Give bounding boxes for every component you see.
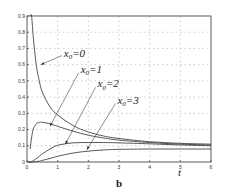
x-tick-label: 4 — [148, 164, 151, 170]
x-tick-label: 2 — [87, 164, 90, 170]
annotation-x0-1: x0=1 — [50, 63, 102, 127]
y-tick-label: 0.9 — [18, 13, 25, 19]
y-tick-label: 0.2 — [18, 126, 25, 132]
x-tick-label: 1 — [56, 164, 59, 170]
y-tick-label: 0.1 — [18, 142, 25, 148]
annotation-x0-0: x0=0 — [41, 47, 86, 65]
y-tick-label: 0.3 — [18, 110, 25, 116]
curve-x0-2 — [29, 142, 211, 162]
y-tick-label: 0.4 — [18, 94, 25, 100]
y-tick-label: 0.7 — [18, 45, 25, 51]
x-tick-label: 0 — [26, 164, 29, 170]
y-tick-label: 0.8 — [18, 29, 25, 35]
annotation-label: x0=3 — [116, 94, 139, 109]
x-tick-label: 3 — [118, 164, 121, 170]
line-chart: 012345600.10.20.30.40.50.60.70.80.9 x0=0… — [0, 0, 225, 194]
arrowhead-icon — [87, 146, 90, 150]
curve-x0-3 — [29, 149, 211, 162]
panel-label: b — [116, 177, 122, 189]
curve-annotations: x0=0x0=1x0=2x0=3 — [41, 47, 139, 150]
x-tick-label: 6 — [210, 164, 213, 170]
y-tick-label: 0.5 — [18, 78, 25, 84]
data-curves — [29, 15, 211, 162]
y-tick-label: 0 — [22, 159, 25, 165]
axis-ticks: 012345600.10.20.30.40.50.60.70.80.9 — [18, 13, 213, 170]
annotation-label: x0=2 — [97, 77, 120, 92]
arrowhead-icon — [41, 62, 45, 65]
y-tick-label: 0.6 — [18, 61, 25, 67]
curve-x0-0 — [30, 15, 211, 145]
annotation-label: x0=1 — [80, 63, 102, 78]
annotation-label: x0=0 — [63, 47, 86, 62]
